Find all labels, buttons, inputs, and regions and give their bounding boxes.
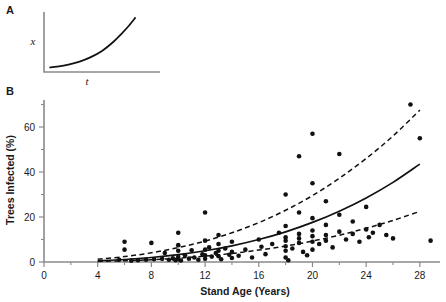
data-point bbox=[324, 238, 329, 243]
data-point bbox=[337, 229, 342, 234]
data-point bbox=[418, 136, 423, 141]
data-point bbox=[377, 223, 382, 228]
data-point bbox=[210, 254, 215, 259]
panel-b-chart: 0481216202428 0204060 Stand Age (Years) … bbox=[0, 0, 446, 302]
data-point bbox=[297, 232, 302, 237]
data-point bbox=[337, 212, 342, 217]
data-point bbox=[236, 253, 241, 258]
data-point bbox=[179, 258, 184, 263]
data-point bbox=[344, 237, 349, 242]
data-point bbox=[310, 131, 315, 136]
panel-b-axis-lines bbox=[44, 100, 440, 262]
curve-lower-confidence-band bbox=[98, 211, 420, 261]
data-point bbox=[297, 241, 302, 246]
data-point bbox=[310, 216, 315, 221]
data-point bbox=[301, 250, 306, 255]
panel-b-xtick-group: 0481216202428 bbox=[41, 262, 426, 281]
data-point bbox=[286, 258, 291, 263]
data-point bbox=[216, 242, 221, 247]
data-point bbox=[216, 233, 221, 238]
xtick-label-0: 0 bbox=[41, 270, 47, 281]
data-point bbox=[122, 239, 127, 244]
data-point bbox=[364, 205, 369, 210]
curve-upper-confidence-band bbox=[98, 110, 420, 259]
panel-b-xlabel: Stand Age (Years) bbox=[200, 285, 289, 297]
data-point bbox=[337, 152, 342, 157]
data-point bbox=[230, 256, 235, 261]
data-point bbox=[167, 257, 172, 262]
data-point bbox=[384, 233, 389, 238]
data-point bbox=[160, 257, 165, 262]
data-point bbox=[136, 258, 141, 263]
xtick-label-12: 12 bbox=[200, 270, 212, 281]
curve-fitted-exponential-model bbox=[98, 164, 420, 261]
data-point bbox=[290, 246, 295, 251]
data-point bbox=[364, 227, 369, 232]
data-point bbox=[187, 256, 192, 261]
xtick-label-24: 24 bbox=[361, 270, 373, 281]
data-point bbox=[196, 257, 201, 262]
ytick-label-0: 0 bbox=[29, 257, 35, 268]
data-point bbox=[263, 252, 268, 257]
data-point bbox=[283, 244, 288, 249]
data-point bbox=[357, 239, 362, 244]
panel-b-ytick-group: 0204060 bbox=[24, 105, 44, 268]
data-point bbox=[283, 238, 288, 243]
data-point bbox=[297, 154, 302, 159]
data-point bbox=[391, 236, 396, 241]
data-point bbox=[324, 199, 329, 204]
data-point bbox=[310, 234, 315, 239]
xtick-label-28: 28 bbox=[414, 270, 426, 281]
data-point bbox=[256, 237, 261, 242]
data-point bbox=[192, 255, 197, 260]
data-point bbox=[129, 258, 134, 263]
data-point bbox=[207, 245, 212, 250]
data-point bbox=[122, 247, 127, 252]
panel-b-scatter-group bbox=[117, 102, 433, 263]
data-point bbox=[176, 243, 181, 248]
data-point bbox=[259, 244, 264, 249]
data-point bbox=[250, 255, 255, 260]
data-point bbox=[203, 210, 208, 215]
data-point bbox=[324, 223, 329, 228]
data-point bbox=[230, 250, 235, 255]
data-point bbox=[310, 181, 315, 186]
data-point bbox=[310, 247, 315, 252]
xtick-label-20: 20 bbox=[307, 270, 319, 281]
ytick-label-60: 60 bbox=[24, 122, 36, 133]
panel-b-ylabel: Trees Infected (%) bbox=[4, 135, 16, 225]
panel-b-axes bbox=[44, 100, 440, 262]
data-point bbox=[149, 241, 154, 246]
data-point bbox=[189, 248, 194, 253]
data-point bbox=[317, 242, 322, 247]
data-point bbox=[203, 238, 208, 243]
data-point bbox=[305, 253, 310, 258]
data-point bbox=[297, 210, 302, 215]
figure-container: A B x t 0481216202428 0204060 Stand Age … bbox=[0, 0, 446, 302]
data-point bbox=[283, 248, 288, 253]
data-point bbox=[408, 102, 413, 107]
data-point bbox=[428, 238, 433, 243]
data-point bbox=[144, 257, 149, 262]
data-point bbox=[330, 245, 335, 250]
data-point bbox=[283, 224, 288, 229]
data-point bbox=[243, 247, 248, 252]
data-point bbox=[277, 230, 282, 235]
data-point bbox=[223, 246, 228, 251]
data-point bbox=[219, 257, 224, 262]
data-point bbox=[367, 235, 372, 240]
ytick-label-20: 20 bbox=[24, 212, 36, 223]
data-point bbox=[350, 219, 355, 224]
data-point bbox=[310, 239, 315, 244]
data-point bbox=[371, 230, 376, 235]
data-point bbox=[176, 230, 181, 235]
data-point bbox=[183, 253, 188, 258]
data-point bbox=[163, 251, 168, 256]
data-point bbox=[297, 236, 302, 241]
xtick-label-8: 8 bbox=[149, 270, 155, 281]
data-point bbox=[270, 242, 275, 247]
data-point bbox=[283, 192, 288, 197]
data-point bbox=[203, 247, 208, 252]
data-point bbox=[203, 257, 208, 262]
xtick-label-16: 16 bbox=[253, 270, 265, 281]
